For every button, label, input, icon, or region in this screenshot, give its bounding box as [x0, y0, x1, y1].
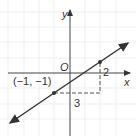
rise-label: 2 [103, 67, 109, 78]
y-axis-label: y [62, 9, 68, 20]
point-label: (−1, −1) [13, 76, 52, 87]
origin-label: O [60, 62, 69, 73]
point-2-1 [98, 60, 102, 64]
x-axis-label: x [124, 77, 130, 88]
coordinate-diagram: y x O (−1, −1) 2 3 [0, 0, 136, 136]
run-label: 3 [74, 98, 80, 109]
point-neg1-neg1 [52, 91, 56, 95]
